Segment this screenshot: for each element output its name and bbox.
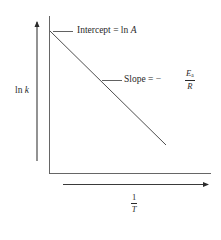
slope-numerator-sub: a [191,72,193,78]
intercept-label: Intercept = ln A [77,26,136,36]
slope-label: Slope = − [124,75,161,85]
x-axis-label-denominator: T [132,204,137,214]
slope-label-equals: = − [148,74,161,84]
regression-line [50,31,166,145]
y-axis-label-prefix: ln [15,85,22,95]
y-axis-label: ln k [15,86,29,96]
intercept-label-var: A [131,25,137,35]
slope-fraction-numerator: Ea [185,69,195,81]
slope-label-text: Slope [124,74,146,84]
x-axis-label-numerator: 1 [131,193,137,204]
x-axis-label: 1 T [131,193,137,213]
slope-fraction: Ea R [185,69,195,90]
y-axis-label-var: k [25,85,29,95]
intercept-label-text: Intercept = ln [77,25,128,35]
slope-fraction-denominator: R [187,81,192,91]
